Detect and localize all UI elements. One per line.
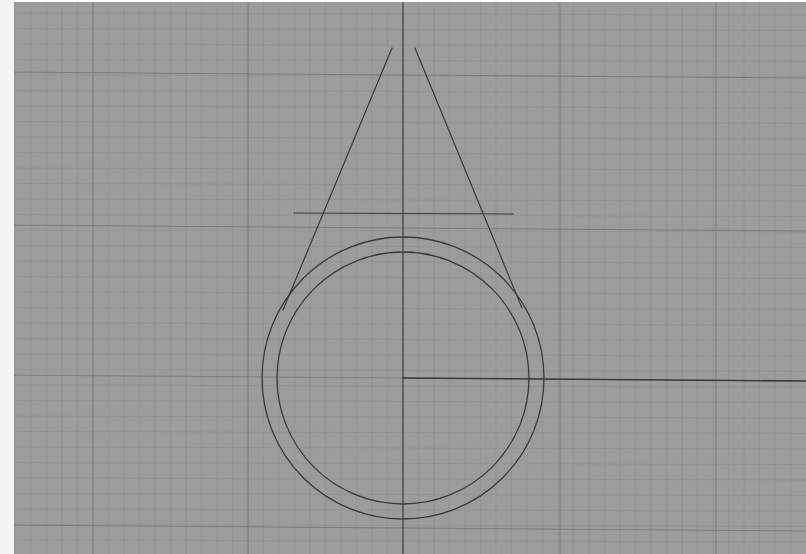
drawing-window (0, 0, 806, 554)
minor-grid-line (14, 29, 806, 31)
minor-grid-line (14, 401, 806, 403)
minor-grid-line (14, 246, 806, 248)
minor-grid-line (14, 44, 806, 46)
minor-grid-line (14, 385, 806, 387)
right-tangent-line[interactable] (415, 48, 522, 308)
minor-grid-line (14, 494, 806, 496)
minor-grid-line (14, 447, 806, 449)
major-grid-line (14, 525, 806, 531)
minor-grid-line (14, 416, 806, 418)
minor-grid-line (14, 308, 806, 310)
minor-grid-line (14, 122, 806, 124)
drawing-canvas[interactable] (14, 2, 806, 554)
minor-grid (14, 2, 806, 554)
minor-grid-line (14, 463, 806, 465)
minor-grid-line (14, 137, 806, 139)
minor-grid-line (14, 184, 806, 186)
minor-grid-line (14, 261, 806, 263)
minor-grid-line (14, 323, 806, 325)
minor-grid-line (14, 168, 806, 170)
minor-grid-line (14, 509, 806, 511)
minor-grid-line (14, 354, 806, 356)
minor-grid-line (14, 339, 806, 341)
minor-grid-line (14, 60, 806, 62)
minor-grid-line (14, 13, 806, 15)
left-margin (0, 0, 14, 554)
cad-viewport[interactable] (14, 2, 806, 554)
minor-grid-line (14, 540, 806, 542)
minor-grid-line (14, 370, 806, 372)
minor-grid-line (14, 106, 806, 108)
minor-grid-line (14, 199, 806, 201)
minor-grid-line (14, 215, 806, 217)
minor-grid-line (14, 478, 806, 480)
minor-grid-line (14, 91, 806, 93)
major-grid-line (14, 72, 806, 78)
minor-grid-line (14, 432, 806, 434)
horizontal-construction-line[interactable] (294, 213, 513, 214)
minor-grid-line (14, 277, 806, 279)
minor-grid-line (14, 292, 806, 294)
minor-grid-line (14, 153, 806, 155)
